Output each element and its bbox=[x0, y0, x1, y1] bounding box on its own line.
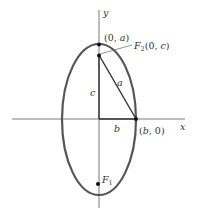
co-vertex-point bbox=[134, 117, 138, 121]
x-axis-label: x bbox=[180, 121, 186, 132]
co-vertex-label: (b, 0) bbox=[139, 125, 165, 136]
segment-c-label: c bbox=[90, 87, 96, 98]
vertex-top-point bbox=[97, 43, 101, 47]
focus-top-label: F2(0, c) bbox=[133, 40, 170, 53]
vertex-top-label: (0, a) bbox=[104, 32, 129, 43]
focus-bottom-point bbox=[96, 182, 100, 186]
y-axis-label: y bbox=[102, 7, 109, 18]
segment-b-label: b bbox=[114, 123, 120, 134]
segment-a-label: a bbox=[117, 77, 123, 88]
focus-top-point bbox=[97, 54, 101, 58]
ellipse-diagram: y x (0, a) F2(0, c) a c b (b, 0) F1 bbox=[0, 0, 197, 222]
focus-bottom-label: F1 bbox=[101, 174, 113, 187]
